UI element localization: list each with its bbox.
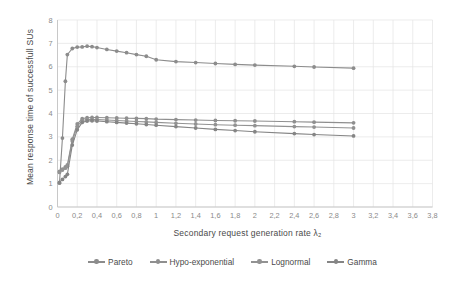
y-tick-label: 5 xyxy=(42,86,53,95)
data-point xyxy=(65,53,69,57)
data-point xyxy=(194,118,198,122)
x-tick-label: 1,8 xyxy=(226,211,244,220)
data-point xyxy=(233,119,237,123)
data-point xyxy=(63,79,67,83)
data-point xyxy=(312,120,316,124)
data-point xyxy=(144,123,148,127)
data-point xyxy=(352,126,356,130)
data-point xyxy=(75,45,79,49)
x-tick-label: 0,6 xyxy=(108,211,126,220)
data-point xyxy=(312,133,316,137)
data-point xyxy=(85,119,89,123)
series-lognormal xyxy=(58,117,356,174)
data-point xyxy=(95,46,99,50)
data-point xyxy=(115,120,119,124)
data-point xyxy=(312,65,316,69)
legend-item-gamma[interactable]: Gamma xyxy=(327,257,377,267)
data-point xyxy=(154,58,158,62)
y-tick-label: 0 xyxy=(42,203,53,212)
data-point xyxy=(233,129,237,133)
data-point xyxy=(58,171,62,175)
legend-marker-icon xyxy=(150,258,167,266)
y-tick-label: 1 xyxy=(42,179,53,188)
data-point xyxy=(65,172,69,176)
chart-legend: ParetoHypo-exponentialLognormalGamma xyxy=(0,257,465,267)
x-tick-label: 0,4 xyxy=(88,211,106,220)
legend-marker-icon xyxy=(251,258,268,266)
data-point xyxy=(253,130,257,134)
x-tick-label: 1,6 xyxy=(206,211,224,220)
data-point xyxy=(292,120,296,124)
legend-label: Pareto xyxy=(108,257,132,267)
data-point xyxy=(85,44,89,48)
data-point xyxy=(75,128,79,132)
data-series-layer xyxy=(58,44,356,185)
data-point xyxy=(70,47,74,51)
data-point xyxy=(80,45,84,49)
data-point xyxy=(292,64,296,68)
data-point xyxy=(213,119,217,123)
data-point xyxy=(90,119,94,123)
plot-area xyxy=(0,0,465,292)
data-point xyxy=(154,123,158,127)
x-tick-label: 3,6 xyxy=(404,211,422,220)
data-point xyxy=(292,132,296,136)
y-tick-label: 8 xyxy=(42,16,53,25)
legend-label: Gamma xyxy=(347,257,377,267)
data-point xyxy=(58,181,62,185)
x-tick-label: 2,8 xyxy=(325,211,343,220)
x-tick-label: 3,2 xyxy=(364,211,382,220)
x-tick-label: 1,2 xyxy=(167,211,185,220)
legend-item-pareto[interactable]: Pareto xyxy=(88,257,132,267)
legend-item-hypo-exponential[interactable]: Hypo-exponential xyxy=(150,257,235,267)
data-point xyxy=(174,118,178,122)
y-tick-label: 6 xyxy=(42,62,53,71)
data-point xyxy=(253,119,257,123)
data-point xyxy=(105,120,109,124)
legend-item-lognormal[interactable]: Lognormal xyxy=(251,257,310,267)
x-tick-label: 3,4 xyxy=(384,211,402,220)
data-point xyxy=(352,66,356,70)
series-pareto xyxy=(58,44,356,185)
y-tick-label: 3 xyxy=(42,132,53,141)
data-point xyxy=(144,117,148,121)
x-axis-title: Secondary request generation rate λ₂ xyxy=(60,228,435,238)
data-point xyxy=(70,143,74,147)
chart-container: Mean response time of successfull SUs 00… xyxy=(0,0,465,292)
data-point xyxy=(233,123,237,127)
legend-label: Lognormal xyxy=(271,257,310,267)
data-point xyxy=(90,45,94,49)
data-point xyxy=(80,120,84,124)
data-point xyxy=(174,60,178,64)
data-point xyxy=(135,53,139,57)
data-point xyxy=(125,121,129,125)
data-point xyxy=(194,61,198,65)
data-point xyxy=(194,126,198,130)
data-point xyxy=(352,121,356,125)
gridlines xyxy=(58,20,433,207)
data-point xyxy=(233,63,237,67)
data-point xyxy=(61,178,65,182)
series-gamma xyxy=(58,119,356,185)
data-point xyxy=(115,49,119,53)
data-point xyxy=(125,51,129,55)
data-point xyxy=(154,117,158,121)
data-point xyxy=(194,122,198,126)
y-tick-label: 2 xyxy=(42,156,53,165)
data-point xyxy=(253,63,257,67)
data-point xyxy=(312,125,316,129)
data-point xyxy=(213,127,217,131)
x-tick-label: 2,6 xyxy=(305,211,323,220)
data-point xyxy=(105,48,109,52)
data-point xyxy=(292,125,296,129)
data-point xyxy=(61,136,65,140)
data-point xyxy=(174,121,178,125)
x-tick-label: 2 xyxy=(246,211,264,220)
x-tick-label: 3 xyxy=(345,211,363,220)
x-tick-label: 2,2 xyxy=(266,211,284,220)
data-point xyxy=(135,122,139,126)
data-point xyxy=(144,54,148,58)
data-point xyxy=(352,134,356,138)
data-point xyxy=(174,125,178,129)
y-tick-label: 7 xyxy=(42,39,53,48)
